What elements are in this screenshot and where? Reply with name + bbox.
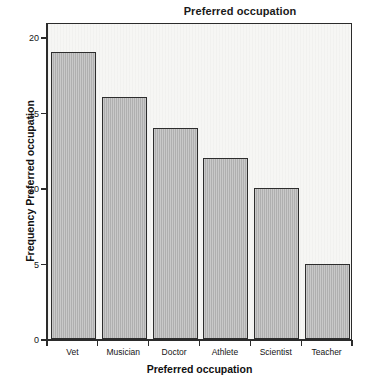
- y-tick-mark: [41, 113, 46, 114]
- y-tick-mark: [41, 264, 46, 265]
- x-tick-mark: [351, 341, 352, 346]
- bar-vet: [51, 52, 96, 339]
- bar-athlete: [203, 158, 248, 339]
- y-tick-label: 20: [29, 33, 39, 43]
- y-tick-mark: [41, 188, 46, 189]
- x-tick-mark: [199, 341, 200, 346]
- x-tick-mark: [250, 341, 251, 346]
- bar-chart: Preferred occupation 05101520 Frequency …: [0, 0, 366, 382]
- y-tick-mark: [41, 37, 46, 38]
- y-tick-label: 0: [34, 335, 39, 345]
- x-tick-label-doctor: Doctor: [162, 347, 187, 357]
- y-axis-title: Frequency Preferred occupation: [24, 56, 36, 306]
- bar-scientist: [254, 188, 299, 339]
- x-tick-mark: [148, 341, 149, 346]
- bars-layer: [48, 24, 351, 339]
- bar-doctor: [153, 128, 198, 339]
- x-tick-label-scientist: Scientist: [260, 347, 292, 357]
- bar-musician: [102, 97, 147, 339]
- x-tick-label-vet: Vet: [66, 347, 78, 357]
- x-tick-mark: [97, 341, 98, 346]
- y-axis-line: [46, 23, 47, 341]
- bar-teacher: [305, 264, 350, 339]
- x-tick-label-athlete: Athlete: [212, 347, 238, 357]
- x-axis-title: Preferred occupation: [47, 363, 352, 375]
- chart-title: Preferred occupation: [128, 5, 352, 17]
- x-tick-label-teacher: Teacher: [311, 347, 341, 357]
- x-tick-mark: [46, 341, 47, 346]
- plot-area: [47, 23, 352, 340]
- x-tick-label-musician: Musician: [106, 347, 140, 357]
- x-tick-mark: [301, 341, 302, 346]
